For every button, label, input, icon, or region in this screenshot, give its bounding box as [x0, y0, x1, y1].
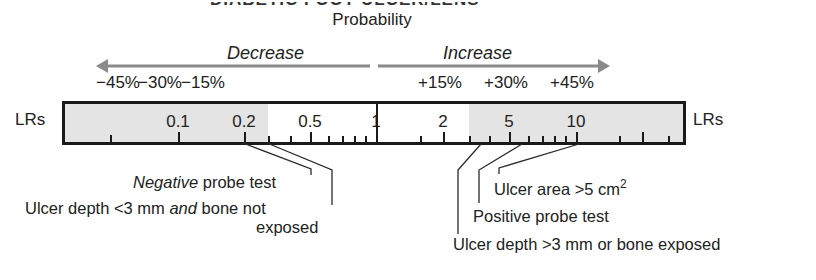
finding-italic: and — [169, 199, 197, 217]
finding-text: probe test — [198, 173, 276, 191]
finding-text: Ulcer depth <3 mm — [25, 199, 169, 217]
finding-shallow-ulcer: Ulcer depth <3 mm and bone not — [25, 199, 266, 218]
leader-shallow-ulcer — [267, 143, 332, 205]
superscript: 2 — [620, 177, 627, 191]
finding-text: bone not — [197, 199, 266, 217]
finding-ulcer-area: Ulcer area >5 cm2 — [494, 177, 627, 199]
finding-shallow-ulcer-line2: exposed — [256, 218, 318, 237]
finding-italic: Negative — [133, 173, 198, 191]
finding-negative-probe: Negative probe test — [133, 173, 276, 192]
finding-deep-ulcer: Ulcer depth >3 mm or bone exposed — [453, 235, 720, 254]
finding-positive-probe: Positive probe test — [473, 207, 609, 226]
leader-ulcer-area — [499, 144, 579, 174]
finding-text: Ulcer area >5 cm — [494, 180, 620, 198]
